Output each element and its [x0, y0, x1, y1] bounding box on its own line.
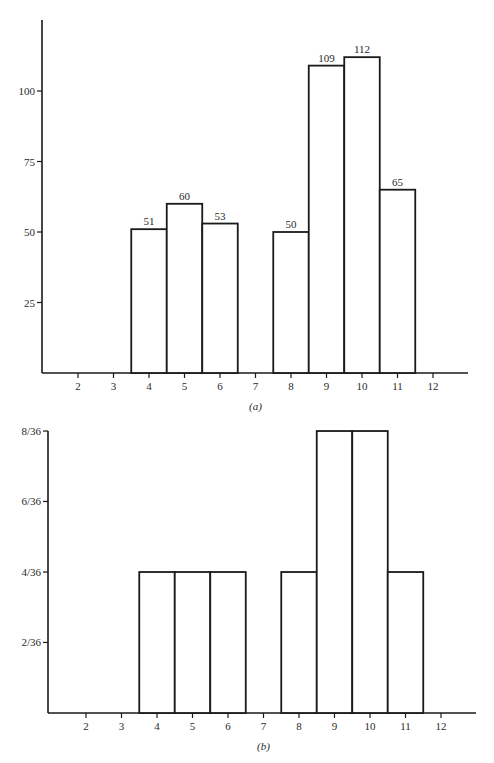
- panel-caption: (a): [249, 400, 262, 413]
- bar-value-label: 65: [392, 176, 404, 188]
- histogram-bar: [210, 572, 246, 713]
- x-tick-label: 12: [428, 380, 439, 392]
- bar-value-label: 109: [318, 52, 335, 64]
- y-tick-label: 8/36: [21, 425, 41, 437]
- panel-caption: (b): [257, 740, 270, 753]
- x-tick-label: 6: [217, 380, 223, 392]
- y-tick-label: 2/36: [21, 636, 41, 648]
- x-tick-label: 10: [357, 380, 369, 392]
- histogram-bar: [344, 57, 380, 373]
- chart-b-probability-histogram: 2/364/366/368/3623456789101112(b): [21, 425, 476, 753]
- x-tick-label: 12: [436, 720, 447, 732]
- y-tick-label: 6/36: [21, 495, 41, 507]
- x-tick-label: 5: [190, 720, 196, 732]
- bar-value-label: 50: [286, 218, 298, 230]
- x-tick-label: 9: [332, 720, 338, 732]
- x-tick-label: 3: [119, 720, 125, 732]
- x-tick-label: 11: [392, 380, 403, 392]
- histogram-bar: [380, 190, 416, 373]
- x-tick-label: 5: [182, 380, 188, 392]
- y-tick-label: 50: [24, 226, 36, 238]
- histogram-bar: [131, 229, 167, 373]
- histogram-bar: [202, 224, 238, 373]
- histogram-bar: [317, 431, 353, 713]
- x-tick-label: 11: [400, 720, 411, 732]
- x-tick-label: 4: [154, 720, 160, 732]
- x-tick-label: 6: [225, 720, 231, 732]
- chart-a-frequency-histogram: 255075100516053501091126523456789101112(…: [19, 20, 469, 413]
- bar-value-label: 60: [179, 190, 191, 202]
- x-tick-label: 8: [296, 720, 302, 732]
- x-tick-label: 9: [324, 380, 330, 392]
- histogram-bar: [281, 572, 317, 713]
- bar-value-label: 112: [354, 43, 370, 55]
- y-tick-label: 25: [24, 297, 36, 309]
- x-tick-label: 7: [253, 380, 259, 392]
- y-tick-label: 75: [24, 156, 36, 168]
- bar-value-label: 51: [144, 215, 155, 227]
- y-tick-label: 4/36: [21, 566, 41, 578]
- figure: 255075100516053501091126523456789101112(…: [0, 0, 494, 763]
- y-tick-label: 100: [19, 85, 36, 97]
- x-tick-label: 10: [365, 720, 377, 732]
- histogram-bar: [273, 232, 309, 373]
- histogram-bar: [167, 204, 203, 373]
- histogram-bar: [175, 572, 211, 713]
- x-tick-label: 3: [111, 380, 117, 392]
- histogram-bar: [139, 572, 175, 713]
- bar-value-label: 53: [215, 210, 227, 222]
- x-tick-label: 7: [261, 720, 267, 732]
- x-tick-label: 2: [83, 720, 89, 732]
- histogram-bar: [352, 431, 388, 713]
- x-tick-label: 4: [146, 380, 152, 392]
- histogram-bar: [388, 572, 424, 713]
- x-tick-label: 8: [288, 380, 294, 392]
- histogram-bar: [309, 66, 345, 373]
- x-tick-label: 2: [75, 380, 81, 392]
